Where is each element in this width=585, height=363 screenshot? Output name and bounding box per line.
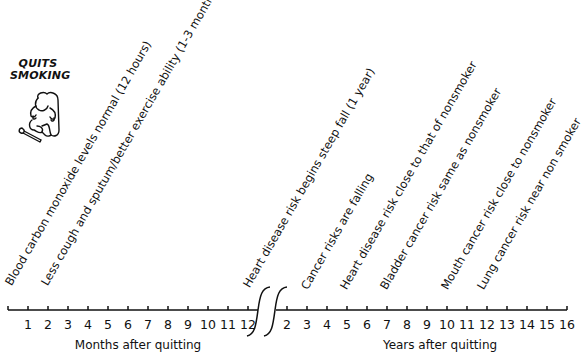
year-tick-4: 4: [323, 317, 331, 332]
year-tick-10: 10: [439, 317, 455, 332]
month-tick-8: 8: [164, 317, 172, 332]
month-tick-7: 7: [144, 317, 152, 332]
month-tick-1: 1: [24, 317, 32, 332]
month-tick-9: 9: [184, 317, 192, 332]
year-tick-11: 11: [459, 317, 475, 332]
month-tick-12: 12: [240, 317, 256, 332]
month-tick-4: 4: [84, 317, 92, 332]
month-tick-11: 11: [220, 317, 236, 332]
year-tick-6: 6: [363, 317, 371, 332]
month-tick-2: 2: [44, 317, 52, 332]
year-tick-7: 7: [383, 317, 391, 332]
month-tick-6: 6: [124, 317, 132, 332]
year-tick-2: 2: [283, 317, 291, 332]
year-tick-15: 15: [539, 317, 555, 332]
year-tick-14: 14: [519, 317, 535, 332]
months-axis-label: Months after quitting: [75, 338, 201, 352]
year-tick-12: 12: [479, 317, 495, 332]
year-tick-8: 8: [403, 317, 411, 332]
year-tick-5: 5: [343, 317, 351, 332]
month-tick-10: 10: [200, 317, 216, 332]
year-tick-16: 16: [559, 317, 575, 332]
year-tick-13: 13: [499, 317, 515, 332]
month-tick-5: 5: [104, 317, 112, 332]
month-tick-3: 3: [64, 317, 72, 332]
year-tick-3: 3: [303, 317, 311, 332]
years-axis-label: Years after quitting: [383, 338, 497, 352]
timeline-axis: [0, 0, 585, 363]
year-tick-9: 9: [423, 317, 431, 332]
